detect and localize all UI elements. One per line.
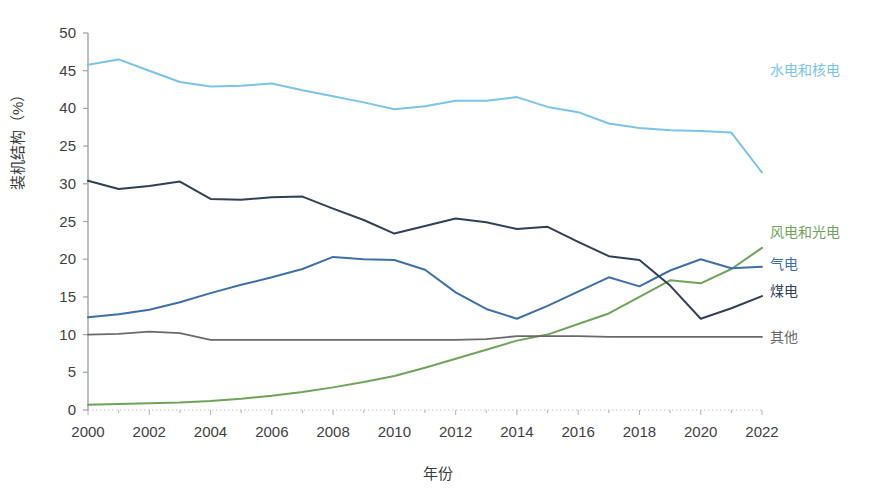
chart-container: 装机结构（%） 年份 50454025302520151050 20002002…: [0, 0, 875, 504]
series-line-4: [88, 332, 762, 340]
series-line-0: [88, 59, 762, 172]
series-line-3: [88, 181, 762, 319]
series-line-2: [88, 257, 762, 319]
series-line-1: [88, 248, 762, 405]
plot-area: [0, 0, 875, 504]
